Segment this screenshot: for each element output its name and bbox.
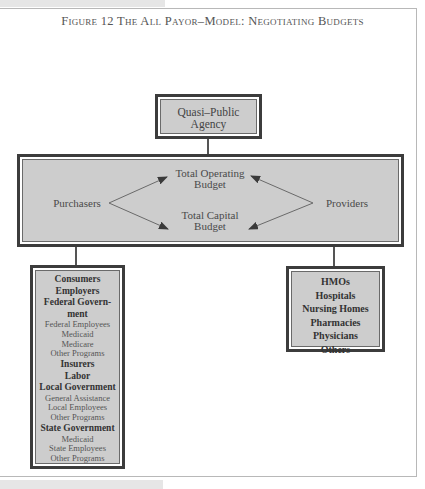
purchaser-subitem: Other Programs xyxy=(36,413,119,423)
provider-item: Nursing Homes xyxy=(292,302,379,316)
purchaser-category: Local Government xyxy=(36,382,119,394)
purchaser-category: Federal Govern- xyxy=(36,297,119,309)
purchaser-category: State Government xyxy=(36,423,119,435)
purchaser-category: Labor xyxy=(36,371,119,383)
purchaser-category: Employers xyxy=(36,286,119,298)
arrow-providers-operating xyxy=(251,176,313,203)
purchasers-box: ConsumersEmployersFederal Govern-mentFed… xyxy=(30,265,125,469)
purchaser-subitem: Other Programs xyxy=(36,349,119,359)
provider-item: Physicians xyxy=(292,329,379,343)
arrow-providers-capital xyxy=(249,203,313,229)
purchaser-category: Consumers xyxy=(36,274,119,286)
purchaser-subitem: Other Programs xyxy=(36,454,119,464)
arrow-purchasers-operating xyxy=(109,177,167,203)
purchaser-category: Insurers xyxy=(36,359,119,371)
provider-item: HMOs xyxy=(292,275,379,289)
provider-item: Hospitals xyxy=(292,289,379,303)
provider-item: Pharmacies xyxy=(292,316,379,330)
arrow-purchasers-capital xyxy=(109,203,168,229)
providers-box: HMOsHospitalsNursing HomesPharmaciesPhys… xyxy=(286,266,385,352)
provider-item: Others xyxy=(292,343,379,357)
